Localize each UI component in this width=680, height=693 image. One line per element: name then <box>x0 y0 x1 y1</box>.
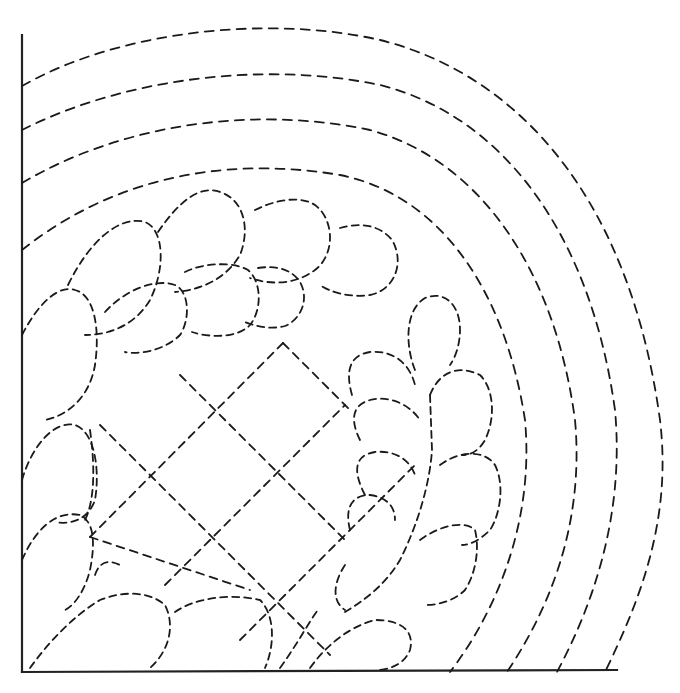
feathers-right-lobe-4 <box>357 452 415 495</box>
feathers-left-lobe-1 <box>22 424 97 522</box>
crosshatch-line-2 <box>283 343 352 412</box>
quilting-pattern-diagram <box>0 0 680 693</box>
feathers-bottom-lobe-4 <box>310 620 411 670</box>
diamond-crosshatch <box>90 343 415 655</box>
feathers-right-lobe-6 <box>430 370 492 455</box>
feathers-upper-lobe-1 <box>22 289 97 420</box>
crosshatch-line-6 <box>180 375 345 540</box>
feathers-upper-lobe-3 <box>158 190 245 292</box>
feathers-bottom-lobe-2 <box>175 597 272 668</box>
feathers-right-lobe-2 <box>349 352 415 395</box>
feathers-upper-lobe-2 <box>68 221 161 335</box>
feathers-bottom-lobe-3 <box>280 610 318 668</box>
feathers-left-lobe-4 <box>95 562 120 575</box>
echo-arc-3 <box>22 119 577 672</box>
feathers-right-lobe-10 <box>345 395 432 612</box>
crosshatch-line-3 <box>165 405 345 585</box>
crosshatch-line-5 <box>100 425 330 655</box>
feathers-upper-lobe-6 <box>105 283 187 353</box>
feathers-left-lobe-2 <box>22 514 93 610</box>
feathers-right-lobe-1 <box>408 296 460 370</box>
feathers-bottom-lobe-1 <box>30 594 170 668</box>
crosshatch-line-4 <box>240 465 415 640</box>
echo-arc-4 <box>22 168 526 672</box>
feathers-right-lobe-5 <box>348 495 395 530</box>
feathers-right-lobe-3 <box>354 399 420 440</box>
crosshatch-line-1 <box>90 343 283 537</box>
bottom-border-line <box>22 670 617 672</box>
feathers-upper-lobe-5 <box>320 225 398 296</box>
feathers-right-lobe-9 <box>336 565 345 610</box>
echo-arc-1 <box>22 28 663 672</box>
feathers-right-lobe-8 <box>420 525 477 605</box>
frame-axes <box>22 35 617 672</box>
feathers-upper-lobe-4 <box>250 200 330 283</box>
echo-arcs <box>22 28 663 672</box>
feather-wreath <box>22 190 500 670</box>
echo-arc-2 <box>22 74 617 672</box>
feathers-right-lobe-7 <box>440 454 500 545</box>
